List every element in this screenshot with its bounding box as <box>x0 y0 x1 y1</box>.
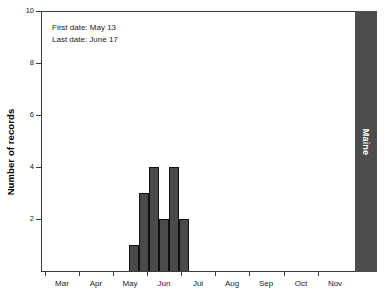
x-tick-mark <box>249 272 250 276</box>
y-tick-mark <box>36 63 41 64</box>
annotation-first-date: First date: May 13 <box>52 22 118 34</box>
x-tick-mark <box>318 272 319 276</box>
x-tick-mark <box>147 272 148 276</box>
x-tick-mark <box>181 272 182 276</box>
y-axis-line <box>41 11 42 272</box>
y-axis-title: Number of records <box>0 0 20 304</box>
y-tick-label: 4 <box>14 163 34 171</box>
x-tick-mark <box>79 272 80 276</box>
bar <box>139 193 149 271</box>
y-tick-label: 2 <box>14 215 34 223</box>
x-tick-mark <box>284 272 285 276</box>
panel-label-text: Maine <box>361 128 371 155</box>
y-tick-mark <box>36 167 41 168</box>
y-tick-label: 6 <box>14 111 34 119</box>
y-axis-title-text: Number of records <box>5 109 16 196</box>
annotation-block: First date: May 13 Last date: June 17 <box>52 22 118 46</box>
bar <box>159 219 169 271</box>
y-tick-label: 10 <box>14 7 34 15</box>
y-tick-mark <box>36 219 41 220</box>
panel-label-strip: Maine <box>355 11 377 272</box>
x-tick-mark <box>215 272 216 276</box>
x-tick-mark <box>113 272 114 276</box>
y-tick-label: 8 <box>14 59 34 67</box>
x-tick-label: Sep <box>246 280 286 288</box>
bar <box>169 167 179 271</box>
chart-figure: Number of records 246810 MarAprMayJunJul… <box>0 0 384 304</box>
y-tick-mark <box>36 115 41 116</box>
bar <box>129 245 139 271</box>
y-tick-mark <box>36 11 41 12</box>
x-tick-label: Nov <box>315 280 355 288</box>
bar <box>179 219 189 271</box>
bar <box>149 167 159 271</box>
x-tick-mark <box>45 272 46 276</box>
annotation-last-date: Last date: June 17 <box>52 34 118 46</box>
plot-top-border <box>41 11 368 12</box>
